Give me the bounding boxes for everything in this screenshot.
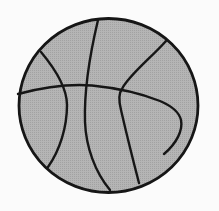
basketball-outline: [19, 18, 198, 192]
basketball-illustration: [0, 0, 219, 211]
basketball-clipart: [0, 0, 219, 211]
